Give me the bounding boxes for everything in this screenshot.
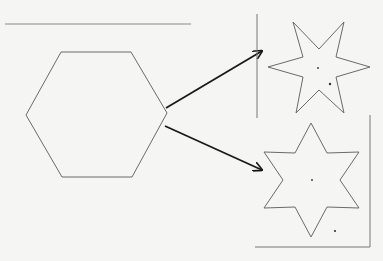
star-top-center-dot [317,67,319,69]
hexagon-shape [26,52,167,177]
star-bottom-center-dot [311,179,313,181]
arrow-to-bottom-star [165,126,262,170]
arrow-to-top-star [166,51,262,108]
star-bottom-offset-dot [334,230,336,232]
star-top-shape [268,22,370,113]
diagram-svg [0,0,383,261]
star-top-offset-dot [329,83,331,85]
diagram-canvas [0,0,383,261]
